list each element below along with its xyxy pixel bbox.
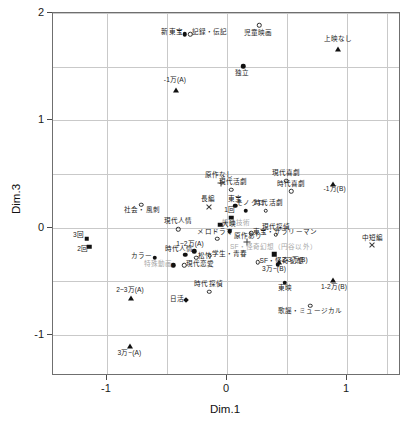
plot-area	[52, 12, 400, 375]
data-point-label: 現代恋愛	[186, 261, 214, 268]
data-point-label: 長編	[201, 196, 215, 203]
data-point-label: 新東宝	[161, 29, 182, 36]
data-point-marker	[176, 227, 181, 232]
data-point-label: 大映	[222, 221, 236, 228]
data-point-label: -1万(A)	[164, 77, 186, 84]
data-point-label: 2~3万(A)	[116, 287, 144, 294]
data-point-label: 現代喜劇	[272, 170, 300, 177]
data-point-marker	[274, 233, 279, 238]
data-point-marker	[289, 189, 294, 194]
data-point-marker	[244, 208, 249, 213]
data-point-marker	[229, 187, 234, 192]
data-point-label: メロドラマ	[197, 229, 233, 236]
data-point-label: 日活	[170, 296, 184, 303]
y-axis-tick	[47, 334, 52, 335]
data-point-marker	[85, 236, 90, 241]
data-point-label: 現代探偵	[262, 224, 290, 231]
data-point-label: 時代探偵	[194, 281, 222, 288]
data-point-label: -1万(B)	[323, 186, 345, 193]
gridline-horizontal	[53, 13, 399, 14]
x-axis-tick-label: 1	[343, 383, 349, 394]
data-point-label: 2回	[77, 246, 88, 253]
data-point-marker	[272, 252, 277, 257]
data-point-marker	[215, 236, 220, 241]
y-axis-tick-label: 0	[24, 221, 44, 232]
data-point-label: 学生・青春	[212, 251, 248, 258]
data-point-label: 3回	[73, 232, 84, 239]
data-point-label: 東映	[278, 285, 292, 292]
y-axis-tick	[47, 12, 52, 13]
correspondence-analysis-scatter-plot: Dim.3 Dim.1 -101-1012新東宝記録・伝記児童映画上映なし独立-…	[0, 0, 416, 427]
data-point-marker	[257, 23, 262, 28]
x-axis-tick-label: 0	[223, 383, 229, 394]
data-point-marker	[173, 87, 179, 92]
data-point-label: 独立	[235, 70, 249, 77]
data-point-label: 2-3万(B)	[282, 257, 308, 264]
data-point-marker	[205, 203, 212, 210]
data-point-marker	[182, 32, 187, 37]
gridline-horizontal	[53, 120, 399, 121]
x-axis-tick-label: -1	[101, 383, 111, 394]
data-point-label: 時代活劇	[254, 200, 282, 207]
data-point-label: 時代喜劇	[277, 181, 305, 188]
y-axis-tick-label: -1	[24, 329, 44, 340]
data-point-marker	[207, 290, 212, 295]
x-axis-tick	[226, 375, 227, 380]
y-axis-tick-label: 2	[24, 7, 44, 18]
data-point-marker	[128, 295, 134, 300]
data-point-marker	[335, 47, 341, 52]
data-point-label: 1回	[224, 207, 235, 214]
gridline-horizontal	[53, 281, 399, 282]
data-point-label: 3万~(B)	[262, 266, 286, 273]
data-point-label: 特殊動画	[144, 261, 172, 268]
data-point-label: 歌謡・ミュージカル	[278, 308, 342, 315]
y-axis-tick-label: 1	[24, 114, 44, 125]
data-point-label: 3万~(A)	[117, 350, 141, 357]
y-axis-title: Dim.3	[10, 183, 22, 213]
data-point-label: 社会・風刺	[124, 207, 160, 214]
data-point-marker	[183, 252, 188, 257]
gridline-horizontal	[53, 67, 399, 68]
x-axis-tick	[106, 375, 107, 380]
data-point-marker	[263, 208, 268, 213]
data-point-marker	[369, 241, 376, 248]
data-point-label: 児童映画	[244, 30, 272, 37]
x-axis-tick	[346, 375, 347, 380]
data-point-label: 時代人情	[165, 246, 193, 253]
x-axis-title: Dim.1	[210, 403, 240, 415]
data-point-label: SF・怪奇幻想（円谷以外）	[230, 244, 317, 251]
data-point-label: 現代活劇	[219, 179, 247, 186]
data-point-label: 原作あり	[234, 233, 262, 240]
gridline-horizontal	[53, 335, 399, 336]
y-axis-tick	[47, 119, 52, 120]
data-point-label: 中短編	[362, 235, 383, 242]
data-point-label: カラー	[131, 253, 152, 260]
data-point-label: 現代人情	[164, 218, 192, 225]
data-point-label: 上映なし	[324, 36, 352, 43]
data-point-label: 記録・伝記	[192, 29, 228, 36]
data-point-label: 1-2万(B)	[321, 284, 347, 291]
y-axis-tick	[47, 227, 52, 228]
